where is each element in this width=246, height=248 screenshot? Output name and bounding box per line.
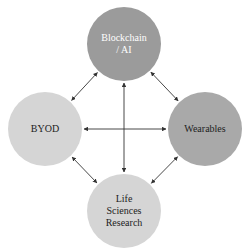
node-label-life-sciences: Life Sciences Research xyxy=(87,174,161,248)
node-label-blockchain: Blockchain / AI xyxy=(87,7,161,81)
node-label-line: Life xyxy=(116,193,133,205)
node-label-byod: BYOD xyxy=(8,92,82,166)
node-label-line: Sciences xyxy=(107,205,142,217)
node-label-line: Research xyxy=(106,217,143,229)
node-label-wearables: Wearables xyxy=(168,92,242,166)
edges-layer xyxy=(72,72,179,183)
node-label-line: BYOD xyxy=(31,123,59,135)
node-label-line: / AI xyxy=(116,44,131,56)
node-label-line: Wearables xyxy=(184,123,225,135)
node-label-line: Blockchain xyxy=(101,32,147,44)
